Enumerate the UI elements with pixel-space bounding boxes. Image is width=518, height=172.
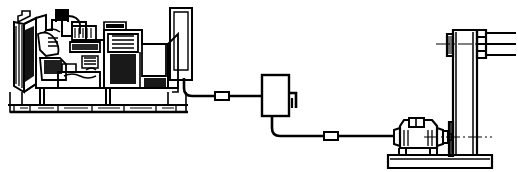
centerlines — [424, 44, 516, 137]
motor-terminal-box — [409, 118, 424, 127]
generator-set — [8, 8, 192, 112]
radiator-core — [14, 11, 36, 92]
junction-box[interactable] — [262, 75, 296, 116]
skid-base-frame — [8, 88, 188, 112]
column-lower-shoulder — [449, 122, 453, 156]
diagram-canvas — [0, 0, 518, 172]
electric-motor — [394, 118, 452, 155]
power-cable-genset-to-junction-box — [184, 78, 262, 100]
column-bearing-flange — [447, 34, 453, 56]
control-panel-cabinet — [170, 8, 192, 92]
alternator-housing — [104, 22, 178, 88]
engine-block — [36, 10, 104, 88]
inline-cable-connector — [215, 92, 229, 100]
inline-cable-connector — [324, 132, 338, 140]
generator-installation-diagram — [0, 0, 518, 172]
common-base-plate — [388, 155, 492, 168]
power-cable-junction-box-to-motor — [272, 116, 394, 140]
